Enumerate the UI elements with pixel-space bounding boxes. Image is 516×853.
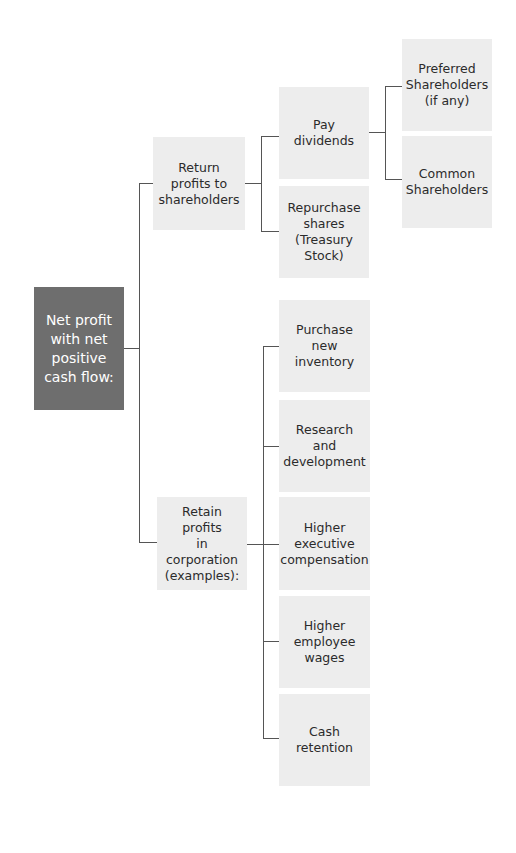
connector-to-cash (263, 738, 279, 739)
node-pay-dividends: Pay dividends (279, 87, 369, 179)
connector-retain-spine (263, 346, 264, 738)
node-return-profits: Return profits to shareholders (153, 137, 245, 230)
node-purchase-inventory: Purchase new inventory (279, 300, 370, 392)
connector-root-spine (139, 183, 140, 542)
node-executive-compensation: Higher executive compensation (279, 497, 370, 590)
node-retain-profits: Retain profits in corporation (examples)… (157, 497, 247, 590)
connector-to-dividends (261, 136, 279, 137)
connector-return-out (245, 183, 261, 184)
connector-to-wages (263, 641, 279, 642)
connector-to-return (139, 183, 153, 184)
node-cash-retention: Cash retention (279, 694, 370, 786)
connector-to-research (263, 446, 279, 447)
node-repurchase-shares: Repurchase shares (Treasury Stock) (279, 186, 369, 278)
node-research-development: Research and development (279, 400, 370, 492)
node-preferred-shareholders: Preferred Shareholders (if any) (402, 39, 492, 131)
connector-to-common (385, 179, 402, 180)
connector-to-preferred (385, 86, 402, 87)
node-common-shareholders: Common Shareholders (402, 136, 492, 228)
connector-return-spine (261, 136, 262, 231)
root-node-net-profit: Net profit with net positive cash flow: (34, 287, 124, 410)
connector-root-out (124, 348, 139, 349)
node-employee-wages: Higher employee wages (279, 596, 370, 688)
connector-dividends-out (369, 132, 385, 133)
connector-dividends-spine (385, 86, 386, 179)
connector-to-retain (139, 542, 157, 543)
connector-to-repurchase (261, 231, 279, 232)
connector-to-inventory (263, 346, 279, 347)
